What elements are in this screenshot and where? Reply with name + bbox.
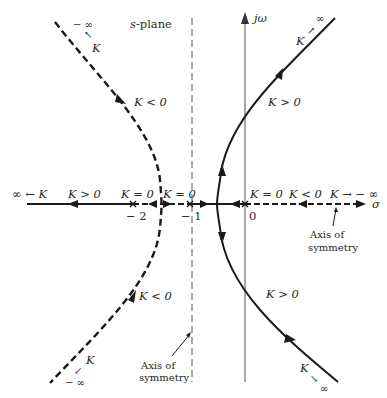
arrow-down-right-icon — [115, 94, 126, 104]
arrow-down-icon — [218, 232, 226, 244]
arrow-up-right-icon — [186, 332, 191, 338]
arrow-left-icon — [298, 200, 307, 208]
k-positive-upper-label: K > 0 — [267, 95, 301, 109]
arrow-up-icon — [241, 12, 249, 24]
symmetry-pointer — [172, 334, 190, 356]
tick-zero: 0 — [249, 209, 256, 223]
horizontal-symmetry-label-line1: Axis of — [309, 229, 345, 240]
arrow-right-icon — [356, 200, 366, 208]
tick-neg1: − 1 — [181, 209, 202, 223]
k-negative-lower-label: K < 0 — [138, 289, 172, 303]
pole-label-zero: K = 0 — [249, 187, 283, 201]
arrow-left-icon — [148, 200, 157, 208]
arrow-ne-icon: ↗ — [307, 25, 315, 36]
right-neg-infinity-label: K → − ∞ — [329, 187, 378, 201]
left-infinity-label: ∞ ← K — [12, 187, 49, 201]
vertical-symmetry-label-line1: Axis of — [140, 360, 176, 371]
root-locus-diagram: jω σ s-plane − ∞ ↖ K K < 0 K ↗ ∞ — [0, 0, 387, 398]
k-label-bottom-right: K — [299, 361, 310, 375]
pole-label-neg1: K = 0 — [162, 187, 196, 201]
k-label-bottom-left: K — [85, 353, 96, 367]
infinity-top: ∞ — [316, 13, 324, 24]
tick-neg2: − 2 — [126, 209, 147, 223]
k-negative-real-label: K < 0 — [288, 187, 322, 201]
k-positive-real-label: K > 0 — [67, 187, 101, 201]
arrow-right-icon — [163, 200, 172, 208]
infinity-bottom: ∞ — [320, 383, 328, 394]
imag-axis-label: jω — [251, 11, 268, 25]
k-negative-upper-label: K < 0 — [133, 95, 167, 109]
plane-title: s-plane — [130, 17, 172, 31]
arrow-nw-icon: ↖ — [84, 29, 92, 40]
neg-infinity-bottom: − ∞ — [65, 377, 85, 388]
arrow-up-icon — [334, 207, 338, 212]
imaginary-axis — [241, 12, 249, 382]
locus-branch-negative — [50, 22, 162, 383]
vertical-symmetry-label-line2: symmetry — [139, 372, 189, 383]
arrow-sw-icon: ↙ — [74, 365, 82, 376]
arrow-left-icon — [68, 200, 78, 208]
arrow-left-icon — [230, 200, 240, 208]
horizontal-symmetry-label-line2: symmetry — [308, 242, 358, 253]
arrow-right-icon — [200, 200, 209, 208]
arrow-se-icon: ↘ — [310, 373, 318, 384]
k-positive-lower-label: K > 0 — [265, 287, 299, 301]
k-label-top-left: K — [91, 41, 102, 55]
k-label-top-right: K — [295, 34, 306, 48]
pole-label-neg2: K = 0 — [120, 187, 154, 201]
arrow-up-icon — [218, 164, 226, 176]
